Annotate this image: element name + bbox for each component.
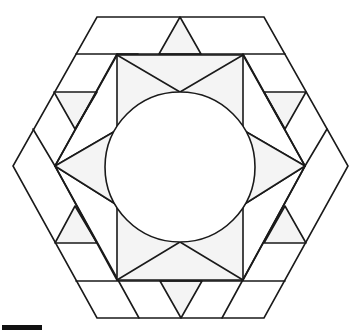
quilt-block-diagram bbox=[0, 0, 355, 330]
scale-bar bbox=[2, 325, 42, 330]
central-circle bbox=[105, 92, 255, 242]
